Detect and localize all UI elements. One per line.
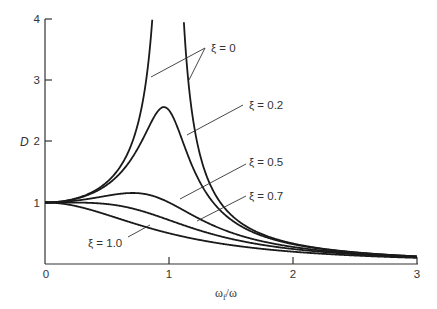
x-axis-label-tail: /ω	[226, 286, 237, 300]
label-xi-1.0: ξ = 1.0	[88, 237, 122, 249]
curve-xi-1	[45, 203, 417, 258]
curve-xi-0-segment-0	[45, 20, 152, 203]
y-axis-label: D	[20, 135, 29, 149]
x-tick-label-1: 1	[166, 268, 172, 280]
label-xi-0.5: ξ = 0.5	[249, 156, 283, 168]
x-ticks	[169, 257, 417, 264]
leader-xi05	[180, 164, 246, 199]
leader-xi07	[197, 196, 246, 221]
label-xi-0: ξ = 0	[211, 42, 236, 54]
x-tick-label-2: 2	[290, 268, 296, 280]
leader-xi10	[128, 225, 150, 237]
x-axis-label-main: ω	[215, 286, 223, 300]
x-axis-label: ωf/ω	[215, 286, 237, 302]
leader-xi0-left	[151, 48, 205, 77]
y-tick-labels: 1 2 3 4	[34, 13, 41, 209]
y-tick-label-2: 2	[34, 135, 40, 147]
x-tick-labels: 0 1 2 3	[43, 268, 420, 280]
label-xi-0.2: ξ = 0.2	[249, 99, 283, 111]
label-xi-0.7: ξ = 0.7	[249, 190, 283, 202]
y-tick-label-3: 3	[34, 74, 40, 86]
curve-xi-0-segment-1	[184, 22, 417, 256]
y-tick-label-4: 4	[34, 13, 41, 25]
x-tick-label-0: 0	[43, 268, 49, 280]
chart-canvas: 1 2 3 4 D 0 1 2 3 ωf/ω ξ = 0 ξ = 0.2 ξ =…	[0, 0, 437, 309]
x-tick-label-3: 3	[414, 268, 420, 280]
curve-xi-0.2	[45, 107, 417, 256]
curves	[45, 20, 417, 258]
leader-xi02	[187, 105, 243, 135]
y-tick-label-1: 1	[34, 197, 40, 209]
y-ticks	[45, 19, 52, 203]
